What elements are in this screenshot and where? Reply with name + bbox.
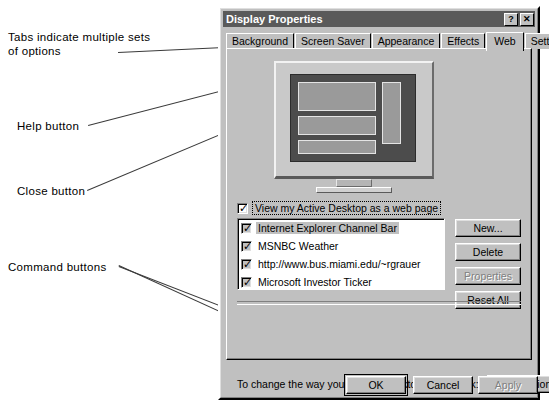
tab-web[interactable]: Web — [486, 32, 523, 51]
tab-screen-saver[interactable]: Screen Saver — [295, 33, 371, 49]
annotation-tabs: Tabs indicate multiple sets of options — [8, 30, 150, 58]
monitor-base — [316, 187, 392, 193]
annotation-command-buttons: Command buttons — [8, 260, 106, 274]
list-item-label: Internet Explorer Channel Bar — [256, 222, 399, 234]
view-active-desktop-checkbox[interactable]: ✓ View my Active Desktop as a web page — [237, 201, 441, 215]
title-bar-buttons: ? ✕ — [504, 13, 535, 26]
monitor-screen — [290, 74, 416, 162]
cancel-button[interactable]: Cancel — [413, 376, 473, 394]
ok-button[interactable]: OK — [346, 376, 406, 394]
check-icon: ✓ — [243, 277, 252, 288]
new-button[interactable]: New... — [455, 219, 521, 237]
preview-content-block-2 — [298, 116, 376, 135]
tab-page-web: ✓ View my Active Desktop as a web page ✓… — [226, 48, 532, 360]
help-icon[interactable]: ? — [504, 13, 518, 26]
tab-appearance[interactable]: Appearance — [372, 33, 441, 49]
close-icon[interactable]: ✕ — [520, 13, 534, 26]
check-icon: ✓ — [243, 223, 252, 234]
preview-content-block-1 — [298, 82, 376, 111]
apply-button: Apply — [478, 376, 538, 394]
reset-all-button[interactable]: Reset All — [455, 291, 521, 309]
tab-effects[interactable]: Effects — [441, 33, 485, 49]
tab-strip: Background Screen Saver Appearance Effec… — [226, 31, 532, 49]
monitor-neck — [336, 179, 372, 187]
list-item-label: Microsoft Investor Ticker — [256, 276, 374, 288]
title-bar[interactable]: Display Properties ? ✕ — [223, 11, 535, 27]
display-properties-dialog: Display Properties ? ✕ Background Screen… — [218, 6, 540, 400]
list-item-label: http://www.bus.miami.edu/~rgrauer — [256, 258, 423, 270]
check-icon: ✓ — [243, 241, 252, 252]
annotation-help-button: Help button — [17, 119, 79, 133]
tab-settings[interactable]: Settings — [525, 33, 549, 49]
checkbox-box[interactable]: ✓ — [241, 259, 252, 270]
tab-background[interactable]: Background — [226, 33, 294, 49]
dialog-title: Display Properties — [223, 13, 323, 25]
separator — [237, 301, 521, 305]
monitor-case — [274, 61, 434, 179]
checkbox-box[interactable]: ✓ — [241, 223, 252, 234]
check-icon: ✓ — [239, 203, 248, 214]
annotation-close-button: Close button — [17, 184, 85, 198]
properties-button: Properties — [455, 267, 521, 285]
web-items-listbox[interactable]: ✓ Internet Explorer Channel Bar ✓ MSNBC … — [237, 218, 445, 290]
list-item[interactable]: ✓ Microsoft Investor Ticker — [238, 273, 444, 290]
list-item[interactable]: ✓ Internet Explorer Channel Bar — [238, 219, 444, 237]
preview-channel-bar — [382, 82, 401, 144]
list-item[interactable]: ✓ MSNBC Weather — [238, 237, 444, 255]
list-item[interactable]: ✓ http://www.bus.miami.edu/~rgrauer — [238, 255, 444, 273]
check-icon: ✓ — [243, 259, 252, 270]
list-item-label: MSNBC Weather — [256, 240, 340, 252]
checkbox-label: View my Active Desktop as a web page — [252, 201, 441, 215]
checkbox-box[interactable]: ✓ — [237, 203, 248, 214]
preview-content-block-3 — [298, 140, 376, 154]
monitor-preview — [274, 61, 434, 193]
delete-button[interactable]: Delete — [455, 243, 521, 261]
checkbox-box[interactable]: ✓ — [241, 277, 252, 288]
checkbox-box[interactable]: ✓ — [241, 241, 252, 252]
